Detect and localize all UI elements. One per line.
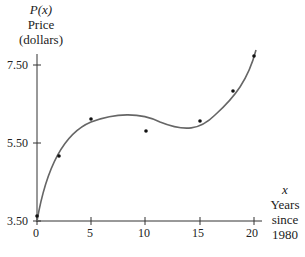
fit-curve <box>37 50 256 221</box>
plot-area <box>0 0 305 257</box>
data-points <box>35 54 256 218</box>
